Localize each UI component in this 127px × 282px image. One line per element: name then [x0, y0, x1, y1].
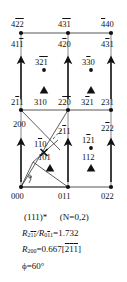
label-420: 420: [58, 40, 71, 49]
caption-r200-sub: 200: [28, 248, 37, 254]
marker-tri-310: [40, 86, 49, 94]
label-321b: 321: [81, 98, 94, 107]
caption-ratio-sub1: 211: [28, 232, 37, 238]
label-112: 112: [82, 153, 94, 162]
caption-ratio-sub2: 011: [44, 232, 53, 238]
angle-label-phi: ϕ: [28, 172, 32, 181]
caption-n: (N=0,2): [60, 212, 89, 222]
node-000: [19, 185, 23, 189]
node-011: [66, 185, 70, 189]
node-422: [19, 31, 23, 35]
label-022: 022: [101, 192, 114, 201]
label-101: 101: [38, 153, 51, 162]
label-000: 000: [11, 192, 24, 201]
label-431b: 431: [101, 40, 114, 49]
marker-tri-321: [87, 86, 96, 94]
label-431: 431: [58, 20, 71, 29]
node-022: [109, 185, 113, 189]
label-220: 220: [58, 98, 71, 107]
caption-phi-value: =60°: [27, 261, 45, 271]
label-211: 211: [11, 98, 23, 107]
label-011: 011: [58, 192, 70, 201]
marker-tri-112: [87, 164, 96, 172]
label-211b: 211: [58, 127, 70, 136]
node-211: [19, 108, 23, 112]
label-321: 321: [35, 58, 48, 67]
marker-dot-121: [89, 146, 93, 150]
caption-zone: (111)*: [24, 212, 47, 222]
figure-canvas: 422 431 440 411 420 431 321 330 211 310 …: [0, 0, 127, 282]
caption-ratio-value: =1.732: [53, 228, 78, 238]
caption-phi-line: ϕ=60°: [22, 261, 44, 271]
caption-ratio-line: R211/R011=1.732: [22, 228, 78, 238]
label-222: 222: [101, 124, 114, 133]
label-121: 121: [82, 136, 95, 145]
marker-tri-101: [46, 164, 55, 172]
label-310: 310: [34, 98, 47, 107]
caption-zone-line: (111)* (N=0,2): [24, 212, 89, 222]
label-231: 231: [101, 98, 114, 107]
label-200: 200: [13, 120, 26, 129]
label-422: 422: [11, 20, 24, 29]
caption-r200-value: =0.667[211]: [37, 244, 82, 254]
node-440: [109, 31, 113, 35]
label-110: 110: [34, 140, 46, 149]
label-440: 440: [101, 20, 114, 29]
node-431: [66, 31, 70, 35]
node-231: [109, 108, 113, 112]
marker-dot-321: [42, 68, 46, 72]
label-330: 330: [82, 58, 95, 67]
label-411: 411: [11, 40, 23, 49]
marker-dot-330: [89, 68, 93, 72]
node-220: [66, 108, 70, 112]
caption-r200-line: R200=0.667[211]: [22, 244, 81, 254]
